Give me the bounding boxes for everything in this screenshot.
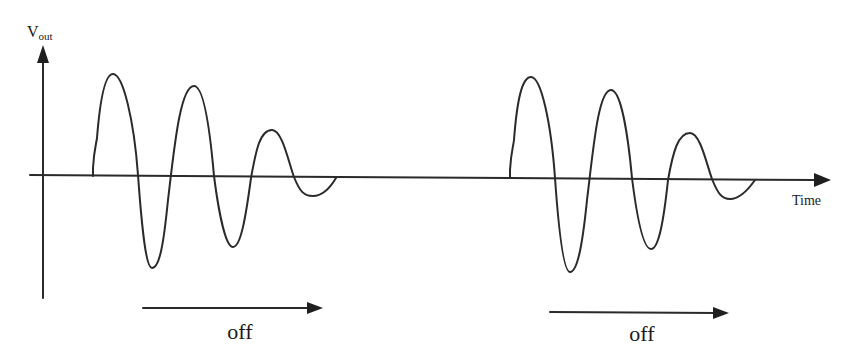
waveform-burst-2 — [510, 77, 755, 272]
y-axis-label-main: V — [27, 23, 39, 40]
off-arrow-2-head — [713, 307, 729, 319]
x-axis-line — [30, 175, 816, 180]
x-axis-label: Time — [792, 193, 821, 208]
off-arrow-2-line — [550, 312, 718, 313]
waveform-diagram: Vout Time off off — [0, 0, 855, 357]
y-axis-arrowhead — [37, 45, 49, 63]
y-axis-label: Vout — [27, 23, 53, 42]
waveform-burst-1 — [93, 74, 336, 268]
y-axis-label-subscript: out — [39, 30, 53, 42]
x-axis-arrowhead — [814, 173, 831, 187]
off-label-1: off — [227, 319, 253, 344]
off-arrow-1-head — [307, 302, 323, 314]
off-label-2: off — [629, 321, 655, 346]
